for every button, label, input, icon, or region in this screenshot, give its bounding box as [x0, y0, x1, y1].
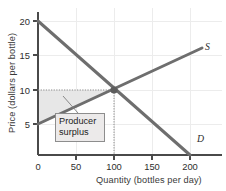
- x-tick-label-100: 100: [103, 161, 125, 172]
- producer-surplus-callout: Producer surplus: [55, 113, 105, 142]
- x-tick-label-0: 0: [27, 161, 49, 172]
- y-tick-label-15: 15: [12, 50, 30, 61]
- producer-surplus-callout-line2: surplus: [59, 127, 101, 138]
- x-tick-label-150: 150: [141, 161, 163, 172]
- x-tick-marks: [76, 155, 190, 160]
- y-tick-label-20: 20: [12, 16, 30, 27]
- x-tick-label-50: 50: [65, 161, 87, 172]
- y-tick-label-10: 10: [12, 85, 30, 96]
- y-tick-label-5: 5: [12, 119, 30, 130]
- x-axis-title: Quantity (bottles per day): [96, 175, 202, 185]
- y-tick-marks: [33, 21, 38, 124]
- demand-curve-label: D: [197, 133, 204, 144]
- supply-curve-label: S: [205, 41, 210, 52]
- producer-surplus-chart: Price (dollars per bottle) Quantity (bot…: [0, 0, 226, 191]
- producer-surplus-callout-line1: Producer: [59, 116, 101, 127]
- equilibrium-point-marker: [110, 86, 117, 93]
- x-tick-label-200: 200: [179, 161, 201, 172]
